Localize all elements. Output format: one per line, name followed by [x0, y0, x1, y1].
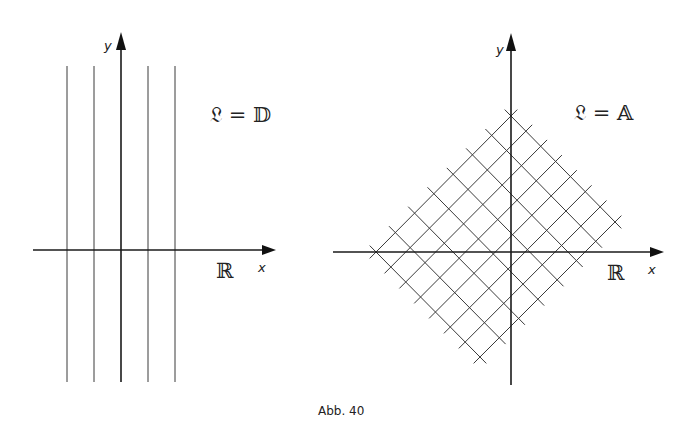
grid-line [385, 125, 533, 274]
right-y-label: y [495, 42, 504, 57]
grid-line [429, 170, 577, 318]
grid-line [459, 201, 607, 349]
figure: y x ℝ 𝔏 = 𝔻 y x ℝ 𝔏 = 𝔸 Abb. 40 [0, 0, 690, 427]
grid-line [399, 140, 547, 289]
grid-line [474, 216, 622, 364]
grid-line [505, 110, 622, 229]
right-panel: y x ℝ 𝔏 = 𝔸 [333, 33, 664, 385]
left-formula: 𝔏 = 𝔻 [210, 103, 271, 127]
right-domain-label: ℝ [607, 261, 625, 285]
grid-line [408, 207, 525, 325]
left-y-arrow-icon [116, 32, 126, 50]
grid-line [466, 148, 583, 267]
right-x-arrow-icon [650, 247, 664, 257]
left-x-arrow-icon [262, 245, 276, 255]
diagonal-grid [370, 110, 622, 364]
right-x-label: x [647, 262, 656, 277]
left-x-label: x [257, 260, 266, 275]
figure-caption: Abb. 40 [318, 404, 364, 418]
left-panel: y x ℝ 𝔏 = 𝔻 [33, 32, 276, 382]
grid-line [370, 110, 518, 259]
grid-line [370, 246, 487, 364]
grid-line [447, 168, 564, 286]
left-y-label: y [103, 38, 112, 53]
grid-line [414, 155, 562, 303]
right-formula: 𝔏 = 𝔸 [574, 101, 634, 125]
right-y-arrow-icon [506, 33, 516, 51]
grid-line [389, 226, 506, 344]
left-domain-label: ℝ [216, 259, 234, 283]
grid-line [428, 187, 545, 305]
grid-line [444, 185, 592, 333]
grid-line [485, 129, 602, 248]
